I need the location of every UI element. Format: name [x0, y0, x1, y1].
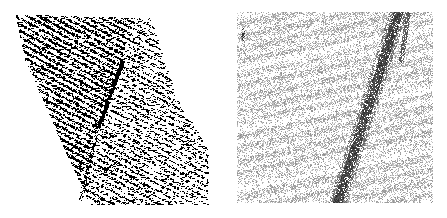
left-point-cloud-canvas	[0, 0, 223, 218]
right-panel-image	[223, 0, 447, 218]
right-stipple-canvas	[223, 0, 447, 218]
left-panel-image	[0, 0, 223, 218]
